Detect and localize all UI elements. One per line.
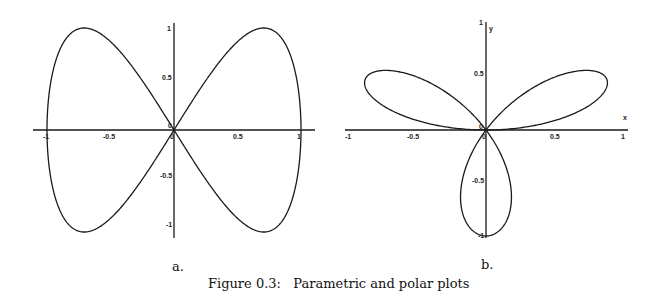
svg-text:-1: -1 <box>43 133 49 140</box>
svg-text:0: 0 <box>482 133 486 140</box>
svg-text:-0.5: -0.5 <box>472 177 484 184</box>
plot-b-x-axis-label: x <box>623 114 627 121</box>
plot-b: -1 -0.5 0 0.5 1 1 0.5 0 -0.5 -1 y x <box>345 19 628 239</box>
svg-text:-1: -1 <box>345 133 351 140</box>
svg-text:0.5: 0.5 <box>550 133 560 140</box>
panel-a-label: a. <box>172 259 184 274</box>
svg-text:1: 1 <box>621 133 625 140</box>
svg-text:-0.5: -0.5 <box>103 133 115 140</box>
svg-text:-0.5: -0.5 <box>160 172 172 179</box>
svg-text:-1: -1 <box>166 221 172 228</box>
svg-text:1: 1 <box>167 25 171 32</box>
svg-text:0.5: 0.5 <box>474 70 484 77</box>
svg-text:0.5: 0.5 <box>233 133 243 140</box>
svg-text:1: 1 <box>479 19 483 26</box>
svg-text:1: 1 <box>297 133 301 140</box>
svg-text:-1: -1 <box>478 232 484 239</box>
plot-b-y-tick-labels: 1 0.5 0 -0.5 -1 <box>472 19 484 239</box>
plot-a-x-tick-labels: -1 -0.5 0 0.5 1 <box>43 133 301 140</box>
plot-a: -1 -0.5 0 0.5 1 1 0.5 0 -0.5 -1 <box>33 23 315 238</box>
plot-b-y-axis-label: y <box>489 25 493 33</box>
panel-b-label: b. <box>481 257 493 272</box>
figure-caption: Figure 0.3: Parametric and polar plots <box>208 276 469 291</box>
svg-text:0: 0 <box>170 133 174 140</box>
figure-canvas: -1 -0.5 0 0.5 1 1 0.5 0 -0.5 -1 -1 -0.5 … <box>0 0 660 300</box>
plot-a-y-tick-labels: 1 0.5 0 -0.5 -1 <box>160 25 172 228</box>
svg-text:0: 0 <box>168 122 172 129</box>
plot-b-x-tick-labels: -1 -0.5 0 0.5 1 <box>345 133 625 140</box>
svg-text:0.5: 0.5 <box>162 74 172 81</box>
svg-text:0: 0 <box>479 123 483 130</box>
svg-text:-0.5: -0.5 <box>407 133 419 140</box>
